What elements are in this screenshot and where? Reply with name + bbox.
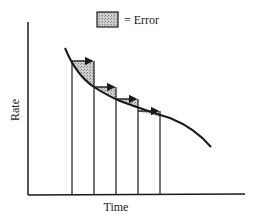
legend: = Error: [97, 12, 159, 27]
error-region-1: [72, 61, 94, 87]
legend-label: = Error: [124, 13, 159, 27]
legend-swatch: [97, 12, 118, 27]
axes: [28, 22, 245, 195]
x-axis: [28, 194, 245, 195]
y-axis-label: Rate: [8, 99, 22, 121]
error-diagram: = Error: [0, 0, 257, 218]
x-axis-label: Time: [104, 200, 129, 214]
